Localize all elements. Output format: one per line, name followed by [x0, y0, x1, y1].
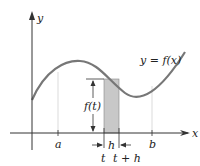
tick-label-t-plus-h: t + h [113, 152, 141, 165]
tick-label-a: a [55, 138, 62, 151]
area-function-diagram: y x y = f(x) f(t) h a t t + h b [0, 0, 200, 166]
x-axis-label: x [192, 127, 199, 140]
curve-label: y = f(x) [139, 54, 181, 67]
tick-label-t: t [101, 152, 106, 165]
height-label: f(t) [83, 100, 101, 113]
y-axis-arrow-icon [29, 11, 35, 20]
width-right-arrow-icon [97, 143, 103, 148]
height-down-arrow-icon [91, 126, 96, 132]
width-left-arrow-icon [120, 143, 126, 148]
height-up-arrow-icon [91, 80, 96, 86]
y-axis-label: y [36, 12, 44, 25]
width-label: h [108, 139, 115, 152]
tick-label-b: b [149, 138, 156, 151]
